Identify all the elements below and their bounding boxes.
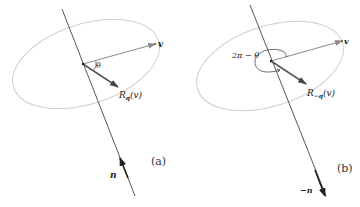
panel-a: θ v Rq(v) n (a): [1, 2, 170, 196]
vector-v-label: v: [344, 36, 349, 46]
vector-rminusq-arrow: [271, 61, 306, 84]
vector-v-arrow: [83, 44, 155, 64]
rotation-plane-ellipse: [1, 2, 170, 125]
panel-b: 2π − θ v R−q(v) −n (b): [185, 4, 354, 196]
rotated-vector-label: R−q(v): [306, 88, 336, 100]
origin-dot: [270, 60, 272, 62]
vector-v-tip-dot: [341, 40, 343, 42]
vector-v-label: v: [158, 39, 164, 49]
caption-a: (a): [151, 155, 166, 168]
rotation-plane-ellipse: [185, 4, 354, 127]
angle-theta-label: θ: [96, 61, 101, 70]
origin-dot: [82, 63, 84, 65]
angle-reflex-label: 2π − θ: [231, 51, 259, 60]
vector-v-tip-dot: [154, 43, 156, 45]
caption-b: (b): [337, 162, 353, 175]
rotation-axis-line: [250, 5, 326, 196]
axis-minus-n-arrow: [315, 170, 325, 196]
rotation-diagram: θ v Rq(v) n (a) 2π − θ v R−q(v) −n (b): [0, 0, 360, 207]
axis-n-label: n: [110, 170, 117, 180]
axis-n-arrow: [120, 158, 128, 178]
axis-minus-n-label: −n: [300, 185, 313, 195]
rotated-vector-label: Rq(v): [118, 90, 143, 102]
